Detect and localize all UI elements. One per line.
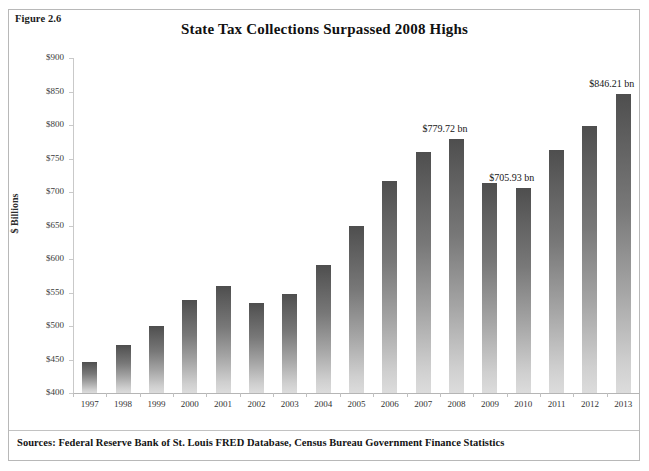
bar-value-label-2013: $846.21 bn	[589, 78, 634, 89]
x-tick-mark	[340, 393, 341, 397]
bar-2007	[416, 152, 431, 393]
x-tick-mark	[573, 393, 574, 397]
x-tick-mark	[240, 393, 241, 397]
plot-area: $900$850$800$750$700$650$600$550$500$450…	[0, 0, 649, 471]
y-tick-label: $450	[22, 354, 64, 364]
x-tick-mark	[407, 393, 408, 397]
bar-2013	[616, 94, 631, 393]
x-tick-mark	[440, 393, 441, 397]
y-tick-mark	[69, 293, 74, 294]
y-tick-mark	[69, 360, 74, 361]
y-tick-label: $850	[22, 86, 64, 96]
bar-1997	[82, 362, 97, 393]
x-tick-mark	[607, 393, 608, 397]
x-axis-line	[73, 393, 640, 394]
sources-note: Sources: Federal Reserve Bank of St. Lou…	[17, 437, 504, 448]
bar-1998	[116, 345, 131, 393]
x-tick-mark	[173, 393, 174, 397]
bar-2006	[382, 181, 397, 393]
y-tick-label: $900	[22, 52, 64, 62]
y-tick-mark	[69, 259, 74, 260]
bar-2003	[282, 294, 297, 393]
bar-2009	[482, 183, 497, 393]
bar-1999	[149, 326, 164, 393]
bar-2000	[182, 300, 197, 393]
y-tick-label: $600	[22, 253, 64, 263]
bar-2001	[216, 286, 231, 393]
x-tick-mark	[473, 393, 474, 397]
bar-value-label-2008: $779.72 bn	[423, 123, 468, 134]
bar-2011	[549, 150, 564, 393]
bar-2012	[582, 126, 597, 393]
bar-value-label-2010: $705.93 bn	[489, 172, 534, 183]
y-tick-label: $400	[22, 387, 64, 397]
y-tick-mark	[69, 159, 74, 160]
bar-2008	[449, 139, 464, 393]
y-tick-mark	[69, 226, 74, 227]
x-tick-mark	[73, 393, 74, 397]
y-tick-label: $700	[22, 186, 64, 196]
y-tick-label: $650	[22, 220, 64, 230]
y-tick-mark	[69, 92, 74, 93]
x-tick-mark	[507, 393, 508, 397]
x-tick-mark	[373, 393, 374, 397]
y-tick-mark	[69, 125, 74, 126]
y-tick-mark	[69, 326, 74, 327]
x-tick-mark	[106, 393, 107, 397]
y-tick-mark	[69, 58, 74, 59]
x-tick-mark	[206, 393, 207, 397]
bar-2002	[249, 303, 264, 393]
bar-2004	[316, 265, 331, 393]
x-tick-mark	[540, 393, 541, 397]
y-tick-label: $550	[22, 287, 64, 297]
figure-container: Figure 2.6 State Tax Collections Surpass…	[0, 0, 649, 471]
y-tick-label: $500	[22, 320, 64, 330]
y-tick-label: $800	[22, 119, 64, 129]
bar-2005	[349, 226, 364, 394]
x-tick-mark	[306, 393, 307, 397]
x-tick-mark	[273, 393, 274, 397]
y-tick-mark	[69, 192, 74, 193]
footer-divider	[9, 430, 639, 431]
x-tick-mark	[140, 393, 141, 397]
bar-2010	[516, 188, 531, 393]
x-tick-label-2013: 2013	[603, 399, 643, 409]
y-tick-label: $750	[22, 153, 64, 163]
